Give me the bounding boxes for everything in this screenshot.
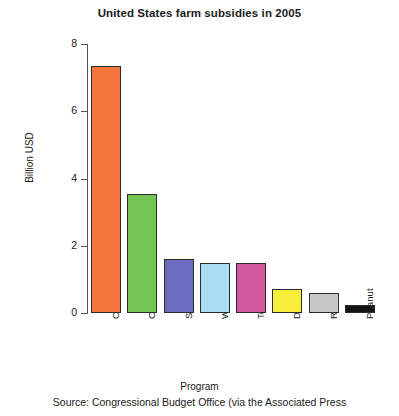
y-tick-label: 4 xyxy=(37,173,77,184)
bar-soybean[interactable] xyxy=(164,259,194,313)
y-tick-label: 8 xyxy=(37,38,77,49)
y-tick-mark xyxy=(81,313,87,314)
y-axis-title: Billion USD xyxy=(24,113,35,203)
y-tick-mark xyxy=(81,44,87,45)
y-tick-mark xyxy=(81,246,87,247)
chart-title: United States farm subsidies in 2005 xyxy=(0,7,399,19)
bar-cotton[interactable] xyxy=(127,194,157,313)
chart-figure: United States farm subsidies in 2005 Bil… xyxy=(0,0,399,416)
bar-wheat[interactable] xyxy=(200,263,230,313)
bar-tobacco[interactable] xyxy=(236,263,266,313)
plot-area: Corn/feedCottonSoybeanWheatTobaccoDairyR… xyxy=(88,44,378,313)
bar-rice[interactable] xyxy=(309,293,339,313)
bar-peanut[interactable] xyxy=(345,305,375,313)
y-tick-label: 6 xyxy=(37,105,77,116)
bar-dairy[interactable] xyxy=(272,289,302,313)
y-tick-label: 0 xyxy=(37,307,77,318)
y-tick-label: 2 xyxy=(37,240,77,251)
y-tick-mark xyxy=(81,111,87,112)
y-tick-mark xyxy=(81,179,87,180)
bar-corn-feed[interactable] xyxy=(91,66,121,313)
source-note: Source: Congressional Budget Office (via… xyxy=(0,396,399,408)
x-axis-title: Program xyxy=(0,381,399,392)
